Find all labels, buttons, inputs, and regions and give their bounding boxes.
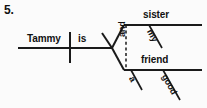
item-number: 5. <box>4 4 14 16</box>
word-predicate-nominative-upper: sister <box>143 10 169 20</box>
word-conjunction: and <box>118 21 127 37</box>
sentence-diagram-container: 5. Tammy is and sister my friend a good <box>0 0 207 108</box>
word-predicate-nominative-lower: friend <box>141 55 168 65</box>
predicate-nominative-slant <box>102 33 112 48</box>
fork-arm-lower <box>112 48 124 70</box>
word-subject: Tammy <box>27 34 61 44</box>
word-verb: is <box>78 34 86 44</box>
